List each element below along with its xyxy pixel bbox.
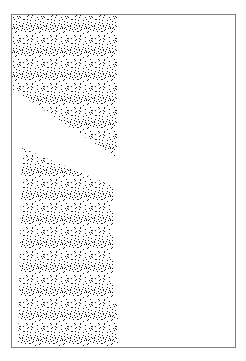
figure-svg (0, 0, 246, 361)
figure-canvas (0, 0, 246, 361)
